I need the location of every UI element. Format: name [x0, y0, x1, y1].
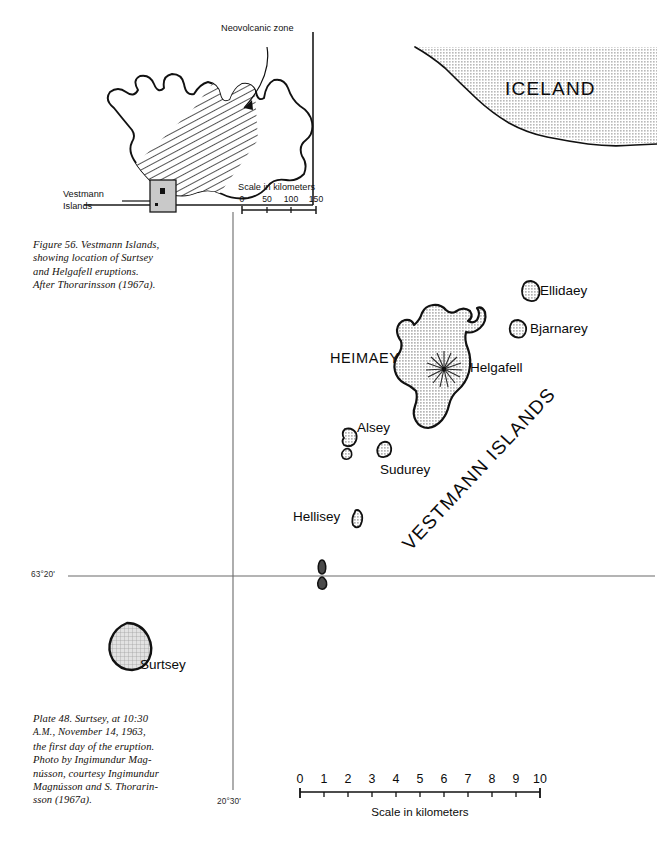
islet-upper-shape: [318, 560, 326, 574]
scale-tick-2: 2: [345, 772, 352, 786]
scale-tick-6: 6: [441, 772, 448, 786]
island-label-ellidaey: Ellidaey: [540, 283, 587, 298]
main-scale-ruler: [300, 788, 560, 800]
island-label-surtsey: Surtsey: [140, 657, 186, 672]
island-label-heimaey: HEIMAEY: [330, 350, 399, 366]
plate-caption-am: A.M.: [33, 727, 52, 737]
scale-tick-4: 4: [393, 772, 400, 786]
scale-tick-1: 1: [321, 772, 328, 786]
island-label-alsey: Alsey: [357, 420, 390, 435]
plate-caption-line-1: Plate 48. Surtsey, at 10:30: [33, 712, 218, 725]
island-label-helgafell: Helgafell: [470, 360, 523, 375]
plate-caption: Plate 48. Surtsey, at 10:30 A.M., Novemb…: [33, 712, 218, 807]
plate-caption-line-2: A.M., November 14, 1963,: [33, 725, 218, 739]
scale-tick-5: 5: [417, 772, 424, 786]
main-scale-numbers: 0 1 2 3 4 5 6 7 8 9 10: [300, 772, 570, 788]
scale-tick-3: 3: [369, 772, 376, 786]
island-label-hellisey: Hellisey: [293, 509, 340, 524]
scale-tick-10: 10: [533, 772, 547, 786]
plate-caption-line-5: nússon, courtesy Ingimundur: [33, 767, 218, 780]
islet-lower-shape: [318, 577, 327, 589]
plate-caption-line-4: Photo by Ingimundur Mag-: [33, 753, 218, 766]
island-ellidaey-shape: [522, 281, 540, 301]
scale-tick-9: 9: [513, 772, 520, 786]
island-bjarnarey-shape: [510, 320, 526, 338]
islet-near-alsey-shape: [342, 449, 352, 460]
scale-tick-8: 8: [489, 772, 496, 786]
main-scale-bar: 0 1 2 3 4 5 6 7 8 9 10 Scale in kilom: [300, 772, 570, 818]
island-hellisey-shape: [352, 510, 362, 527]
plate-caption-line-3: the first day of the eruption.: [33, 740, 218, 753]
plate-caption-line-6: Magnússon and S. Thorarin-: [33, 780, 218, 793]
main-scale-title: Scale in kilometers: [300, 805, 540, 818]
island-label-sudurey: Sudurey: [380, 462, 430, 477]
island-label-bjarnarey: Bjarnarey: [530, 321, 588, 336]
scale-tick-0: 0: [297, 772, 304, 786]
plate-caption-date: , November 14, 1963,: [52, 726, 145, 737]
plate-caption-line-7: sson (1967a).: [33, 793, 218, 806]
island-alsey-shape: [343, 429, 357, 447]
scale-tick-7: 7: [465, 772, 472, 786]
island-sudurey-shape: [377, 442, 391, 457]
